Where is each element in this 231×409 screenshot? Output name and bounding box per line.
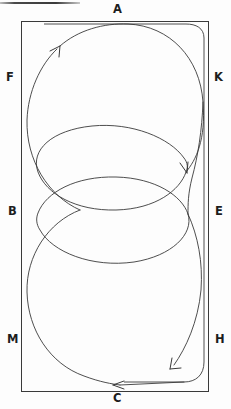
figure-root: A F K B E M H C [0,0,231,409]
spiral-right-connector [188,102,203,214]
spiral-middle-ellipse [36,125,187,210]
outer-loop-bottom-corner [124,362,204,382]
outer-loop-path [44,24,204,38]
label-M: M [7,334,19,346]
label-E: E [215,206,223,218]
bounding-rectangle [22,22,209,392]
diagram-canvas [0,0,231,409]
spiral-lower-left-arc [27,210,120,385]
spiral-lower-ellipse [37,177,189,263]
spiral-upper-sweep [60,24,204,172]
spiral-lower-right-arc [174,214,201,365]
label-F: F [6,72,14,84]
label-K: K [214,72,223,84]
label-B: B [8,206,17,218]
label-H: H [215,334,225,346]
label-C: C [113,393,122,405]
label-A: A [113,4,122,16]
